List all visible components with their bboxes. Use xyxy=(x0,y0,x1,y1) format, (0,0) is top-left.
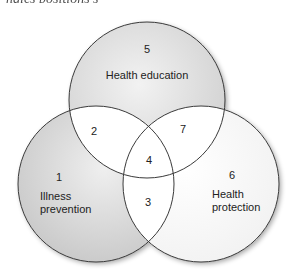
venn-diagram: 5 Health education 1 Illness prevention … xyxy=(0,0,295,272)
region-3-number: 3 xyxy=(145,196,151,208)
region-6-number: 6 xyxy=(229,169,235,181)
region-6-label-line1: Health xyxy=(212,188,244,200)
region-4-number: 4 xyxy=(146,154,152,166)
region-6-label-line2: protection xyxy=(212,201,260,213)
region-2-number: 2 xyxy=(91,125,97,137)
region-1-label-line1: Illness xyxy=(40,190,72,202)
region-1-label-line2: prevention xyxy=(40,203,91,215)
region-1-number: 1 xyxy=(56,171,62,183)
region-5-label: Health education xyxy=(106,69,189,81)
region-7-number: 7 xyxy=(180,123,186,135)
region-5-number: 5 xyxy=(144,43,150,55)
